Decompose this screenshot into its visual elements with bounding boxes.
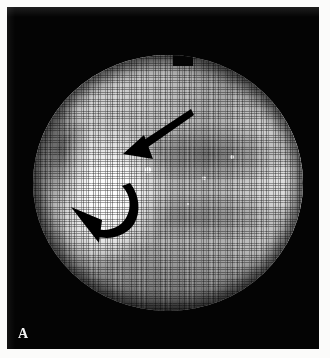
- specular-point: [164, 119, 167, 122]
- specular-point: [145, 167, 151, 173]
- fiber-bundle-mesh-offset: [33, 55, 303, 311]
- specular-point: [187, 203, 190, 206]
- field-top-notch: [173, 55, 193, 66]
- right-rim-highlight: [33, 55, 303, 311]
- secondary-specular-highlight: [33, 55, 303, 311]
- specular-point: [202, 176, 206, 180]
- upper-left-rim-highlight: [33, 55, 303, 311]
- endoscopic-image-field: [33, 55, 303, 311]
- panel-letter: A: [18, 327, 29, 341]
- photograph-plate: A: [7, 7, 319, 349]
- figure-panel: A: [0, 0, 330, 358]
- field-vignette: [33, 55, 303, 311]
- lower-basin-shadow: [33, 55, 303, 311]
- primary-specular-highlight: [33, 55, 303, 311]
- mucosal-crease-shadow: [33, 55, 303, 311]
- left-recess-shadow: [33, 55, 303, 311]
- specular-point: [118, 230, 121, 233]
- specular-point: [230, 155, 234, 159]
- fiber-bundle-mesh: [33, 55, 303, 311]
- mucosa-base-luminance: [33, 55, 303, 311]
